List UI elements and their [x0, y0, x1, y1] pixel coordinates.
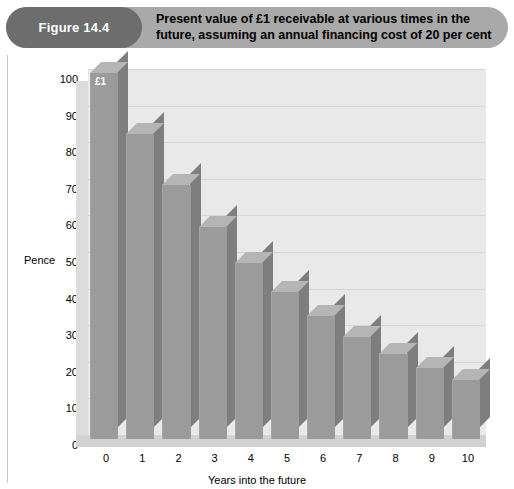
x-axis-tick-label: 2 [158, 452, 198, 464]
figure-number-label: Figure 14.4 [39, 20, 110, 35]
figure-title: Present value of £1 receivable at variou… [156, 12, 501, 43]
plot-area: £1 [88, 69, 498, 450]
y-axis-tick-label: 20 [44, 366, 78, 378]
bar: £1 [90, 73, 117, 439]
y-axis-tick-label: 40 [44, 293, 78, 305]
bar [162, 185, 189, 439]
x-axis-tick-label: 6 [303, 452, 343, 464]
x-axis-tick-label: 5 [267, 452, 307, 464]
y-axis-tick-label: 0 [44, 439, 78, 451]
gridline [88, 106, 486, 107]
x-axis-tick-label: 8 [376, 452, 416, 464]
x-axis-tick-label: 4 [231, 452, 271, 464]
bar-front-face [379, 354, 407, 439]
y-axis-tick-labels: 0102030405060708090100 [22, 69, 78, 439]
bar-front-face [235, 263, 263, 439]
x-axis-tick-label: 7 [339, 452, 379, 464]
bar-front-face [162, 185, 190, 439]
y-axis-tick-label: 60 [44, 219, 78, 231]
bar-front-face [416, 368, 444, 439]
bar-front-face [126, 134, 154, 439]
bar [416, 368, 443, 439]
bar [199, 227, 226, 439]
bar-value-label: £1 [95, 76, 106, 87]
x-axis-title: Years into the future [0, 474, 514, 486]
bar-front-face [307, 316, 335, 439]
bar [379, 354, 406, 439]
x-axis-tick-label: 0 [86, 452, 126, 464]
figure-header-bar: Figure 14.4 Present value of £1 receivab… [6, 7, 508, 48]
y-axis-tick-label: 80 [44, 146, 78, 158]
y-axis-tick-label: 10 [44, 402, 78, 414]
bar [235, 263, 262, 439]
bar-front-face [271, 292, 299, 439]
bar [343, 337, 370, 439]
bar [271, 292, 298, 439]
y-axis-tick-label: 70 [44, 183, 78, 195]
x-axis-tick-labels: 012345678910 [0, 452, 514, 470]
bar-front-face [452, 380, 480, 439]
gridline [88, 69, 486, 70]
x-axis-tick-label: 9 [412, 452, 452, 464]
bar [452, 380, 479, 439]
y-axis-tick-label: 30 [44, 329, 78, 341]
x-axis-tick-label: 1 [122, 452, 162, 464]
x-axis-tick-label: 3 [195, 452, 235, 464]
bar [307, 316, 334, 439]
bar-front-face [199, 227, 227, 439]
bar-front-face [343, 337, 371, 439]
y-axis-tick-label: 100 [44, 73, 78, 85]
plot-side-wall [76, 81, 88, 447]
bar [126, 134, 153, 439]
bar-front-face: £1 [90, 73, 118, 439]
figure-number-pill: Figure 14.4 [6, 7, 142, 48]
chart-area: Pence 0102030405060708090100 £1 01234567… [0, 48, 514, 489]
x-axis-tick-label: 10 [448, 452, 488, 464]
y-axis-tick-label: 90 [44, 110, 78, 122]
y-axis-tick-label: 50 [44, 256, 78, 268]
